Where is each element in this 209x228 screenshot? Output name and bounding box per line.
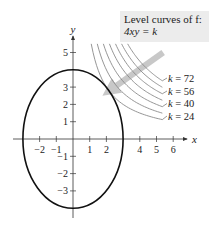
- x-axis-label: x: [191, 133, 197, 145]
- y-tick-label: 1: [63, 116, 68, 127]
- x-tick-label: 2: [104, 144, 109, 155]
- level-label-k-72: k = 72: [168, 73, 194, 84]
- level-curve-labels: k = 72k = 56k = 40k = 24: [162, 73, 195, 122]
- level-label-k-56: k = 56: [168, 86, 194, 97]
- leader-line: [162, 116, 167, 120]
- x-tick-label: 1: [87, 144, 92, 155]
- level-label-k-24: k = 24: [168, 111, 195, 122]
- y-tick-label: 2: [63, 99, 68, 110]
- y-tick-label: −1: [57, 151, 68, 162]
- y-axis-label: y: [70, 23, 76, 35]
- x-tick-label: 6: [171, 144, 176, 155]
- leader-line: [162, 78, 167, 81]
- level-curves-diagram: xy−2−1124565321−1−2−3 k = 72k = 56k = 40…: [0, 0, 209, 228]
- leader-line: [162, 104, 167, 107]
- level-label-k-40: k = 40: [168, 98, 194, 109]
- x-tick-label: 5: [154, 144, 159, 155]
- y-tick-label: 3: [63, 82, 68, 93]
- leader-line: [162, 91, 167, 94]
- y-tick-label: −3: [57, 185, 68, 196]
- y-tick-label: −2: [57, 168, 68, 179]
- x-tick-label: −2: [34, 144, 45, 155]
- y-tick-label: 5: [63, 47, 68, 58]
- x-tick-label: 4: [137, 144, 142, 155]
